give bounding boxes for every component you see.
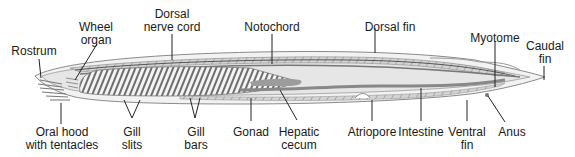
label-gill-slits: Gill slits xyxy=(122,126,143,151)
label-rostrum: Rostrum xyxy=(11,45,56,58)
label-notochord: Notochord xyxy=(244,21,299,34)
label-gonad: Gonad xyxy=(233,126,269,139)
label-ventral-fin: Ventral fin xyxy=(448,126,485,151)
label-caudal-fin: Caudal fin xyxy=(526,40,564,65)
label-dorsal-nerve-cord: Dorsal nerve cord xyxy=(144,8,201,33)
label-myotome: Myotome xyxy=(470,32,519,45)
label-anus: Anus xyxy=(498,126,525,139)
label-hepatic-cecum: Hepatic cecum xyxy=(279,126,320,151)
lancelet-diagram: Rostrum Wheel organ Dorsal nerve cord No… xyxy=(0,0,575,157)
label-atriopore: Atriopore xyxy=(348,126,397,139)
label-oral-hood: Oral hood with tentacles xyxy=(26,126,99,151)
label-intestine: Intestine xyxy=(398,126,443,139)
label-gill-bars: Gill bars xyxy=(184,126,207,151)
label-dorsal-fin: Dorsal fin xyxy=(365,21,416,34)
label-wheel-organ: Wheel organ xyxy=(79,21,113,46)
